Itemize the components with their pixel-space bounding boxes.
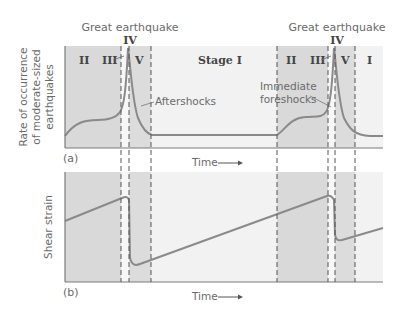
- panel-b-stage-ii-left: [65, 172, 121, 282]
- great-earthquake-right-label: Great earthquake: [289, 21, 386, 34]
- great-earthquake-left-label: Great earthquake: [82, 21, 179, 34]
- stage-iv-right-label: IV: [330, 34, 344, 47]
- panel-a-xlabel: Time: [191, 156, 218, 168]
- stage-ii-right-label: II: [286, 54, 296, 67]
- panel-a-label: (a): [63, 152, 78, 165]
- panel-b-stage-iii-left: [121, 172, 129, 282]
- panel-a-time-arrow-icon: [218, 161, 243, 166]
- panel-b-stage-ii-right: [277, 172, 328, 282]
- earthquake-cycle-figure: II III V Stage I II III V I Aftershocks …: [0, 0, 397, 315]
- aftershocks-label: Aftershocks: [155, 95, 216, 107]
- stage-i-label: Stage I: [198, 54, 242, 67]
- immediate-foreshocks-label-line2: foreshocks: [260, 93, 317, 105]
- stage-v-left-label: V: [134, 54, 144, 67]
- panel-b: (b) Time Shear strain: [42, 172, 383, 302]
- svg-text:Shear strain: Shear strain: [42, 195, 54, 259]
- panel-b-stage-v-right: [335, 172, 355, 282]
- immediate-foreshocks-label-line1: Immediate: [260, 80, 317, 92]
- panel-b-xlabel: Time: [191, 290, 218, 302]
- panel-a-ylabel: Rate of occurrence of moderate-sized ear…: [17, 47, 55, 146]
- stage-iii-left-label: III: [102, 54, 117, 67]
- panel-b-stage-v-left: [129, 172, 151, 282]
- stage-iii-right-label: III: [310, 54, 325, 67]
- panel-b-time-arrow-icon: [218, 295, 243, 300]
- svg-text:of moderate-sized: of moderate-sized: [30, 49, 42, 144]
- svg-text:Rate of occurrence: Rate of occurrence: [17, 47, 29, 146]
- panel-b-ylabel: Shear strain: [42, 195, 54, 259]
- stage-i-right-label: I: [367, 54, 372, 67]
- svg-text:earthquakes: earthquakes: [43, 64, 55, 129]
- stage-ii-left-label: II: [79, 54, 89, 67]
- panel-b-label: (b): [63, 286, 79, 299]
- stage-iv-left-label: IV: [123, 34, 137, 47]
- stage-v-right-label: V: [340, 54, 350, 67]
